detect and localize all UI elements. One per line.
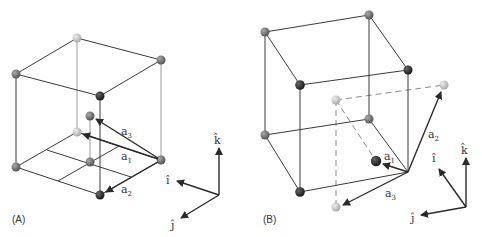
atom-light [440,81,449,90]
vector-a1-label: a1 [121,150,132,165]
panel-a: a3 a1 a2 k̂ î ĵ (A) [12,34,222,233]
atom-dark [96,92,105,101]
cube-edge [265,135,300,192]
atom-mid [365,11,374,20]
axis-i-arrow [439,169,466,207]
vector-a2-arrow [408,92,441,172]
atom-dark [295,187,305,197]
cube-edge [16,38,77,74]
dashed-edge [336,85,444,100]
vector-a1-arrow [383,164,408,172]
cube-edge [100,60,161,96]
axis-i-arrow [177,181,219,195]
vector-a3-label: a3 [121,125,132,140]
atom-light [332,203,341,212]
atom-mid [261,131,270,140]
cube-edge [77,38,161,60]
axis-i-label: î [166,174,170,187]
atom-mid [86,112,95,121]
panel-label-b: (B) [263,214,276,225]
atom-mid [12,70,21,79]
axis-j-label: ĵ [409,212,415,225]
atom-mid [261,28,270,37]
axis-k-label: k̂ [461,143,468,157]
atom-mid [12,163,21,172]
atom-light [332,96,341,105]
vector-a3-label: a3 [385,187,396,202]
cube-edge [300,70,408,85]
atom-light [73,128,82,137]
vector-a2-label: a2 [121,183,132,198]
panel-b: a1 a2 a3 k̂ î ĵ (B) [261,11,469,226]
atom-mid [365,115,374,124]
axis-j-arrow [181,195,219,218]
atom-dark [404,66,413,75]
cube-edge [16,74,100,96]
atom-mid [86,158,95,167]
axis-j-label: ĵ [169,219,175,232]
atom-light [73,34,82,43]
dashed-edge [336,100,376,161]
cube-edge [265,32,300,85]
atom-dark [371,156,381,166]
cube-edge [369,15,408,70]
atom-mid [157,156,166,165]
axis-k-label: k̂ [214,133,221,147]
axis-j-arrow [421,207,466,215]
vector-a2-arrow [106,162,158,192]
crystal-lattice-figure: a3 a1 a2 k̂ î ĵ (A) [0,0,482,237]
cube-edge [300,172,408,192]
atom-mid [157,56,166,65]
vector-a2-label: a2 [428,128,439,143]
cube-edge [265,15,369,32]
panel-label-a: (A) [12,214,25,225]
axis-i-label: î [432,152,436,165]
vector-a3-arrow [343,172,408,205]
atom-dark [96,191,105,200]
cube-edge [16,132,77,167]
atom-dark [295,80,305,90]
